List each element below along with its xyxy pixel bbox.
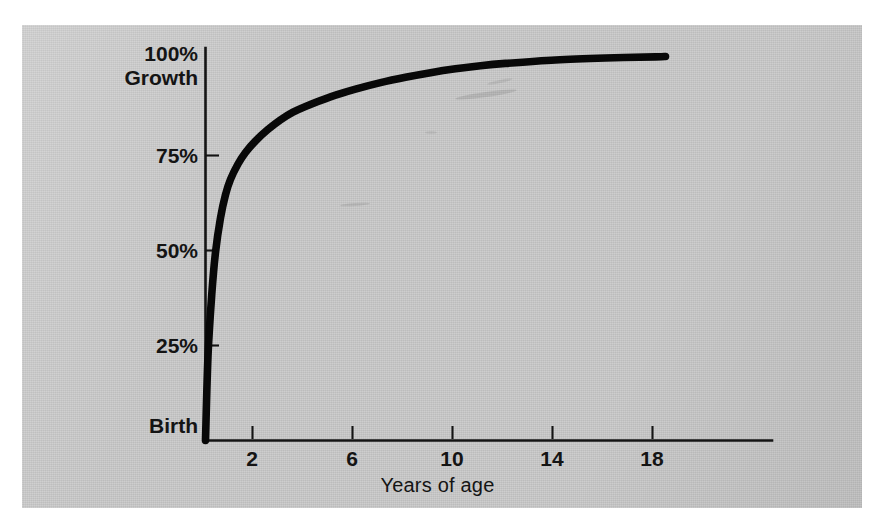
ylabel-100-percent: 100%: [60, 42, 198, 66]
ylabel-growth: Growth: [60, 66, 198, 90]
y-axis-top-label: 100% Growth: [60, 42, 198, 89]
x-axis-label-6: 6: [322, 447, 382, 471]
y-axis-label-75: 75%: [60, 144, 198, 168]
y-axis-label-birth: Birth: [60, 414, 198, 438]
x-axis-label-14: 14: [522, 447, 582, 471]
x-axis-label-18: 18: [622, 447, 682, 471]
x-axis-title: Years of age: [0, 474, 875, 496]
growth-curve: [206, 57, 666, 441]
x-axis-label-2: 2: [222, 447, 282, 471]
x-axis-label-10: 10: [422, 447, 482, 471]
y-axis-label-25: 25%: [60, 334, 198, 358]
y-axis-label-50: 50%: [60, 239, 198, 263]
